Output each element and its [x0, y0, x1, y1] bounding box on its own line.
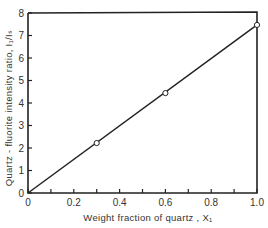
y-tick-label: 8: [18, 8, 24, 19]
x-tick-label: 0.4: [113, 197, 127, 208]
y-tick-label: 7: [18, 30, 24, 41]
y-tick-label: 2: [18, 143, 24, 154]
x-tick-label: 0.2: [67, 197, 81, 208]
y-tick-label: 1: [18, 165, 24, 176]
y-tick-label: 4: [18, 98, 24, 109]
y-axis-label: Quartz - fluorite intensity ratio, I₁/Iₛ: [3, 30, 14, 186]
data-series: [28, 22, 260, 193]
chart: 00.20.40.60.81.0 012345678 Weight fracti…: [0, 0, 268, 228]
y-axis-tick-labels: 012345678: [18, 8, 24, 199]
x-axis-tick-labels: 00.20.40.60.81.0: [25, 197, 264, 208]
x-tick-label: 0: [25, 197, 31, 208]
x-axis-label: Weight fraction of quartz , X₁: [83, 212, 212, 223]
x-tick-label: 1.0: [250, 197, 264, 208]
y-tick-label: 3: [18, 120, 24, 131]
x-tick-label: 0.8: [204, 197, 218, 208]
plot-frame: [28, 12, 257, 193]
fit-line: [28, 25, 257, 193]
data-point-marker: [94, 140, 99, 145]
y-tick-label: 5: [18, 75, 24, 86]
x-tick-label: 0.6: [158, 197, 172, 208]
axes-box: [28, 12, 257, 193]
data-point-marker: [163, 91, 168, 96]
y-tick-label: 0: [18, 188, 24, 199]
y-tick-label: 6: [18, 53, 24, 64]
data-point-marker: [254, 22, 259, 27]
